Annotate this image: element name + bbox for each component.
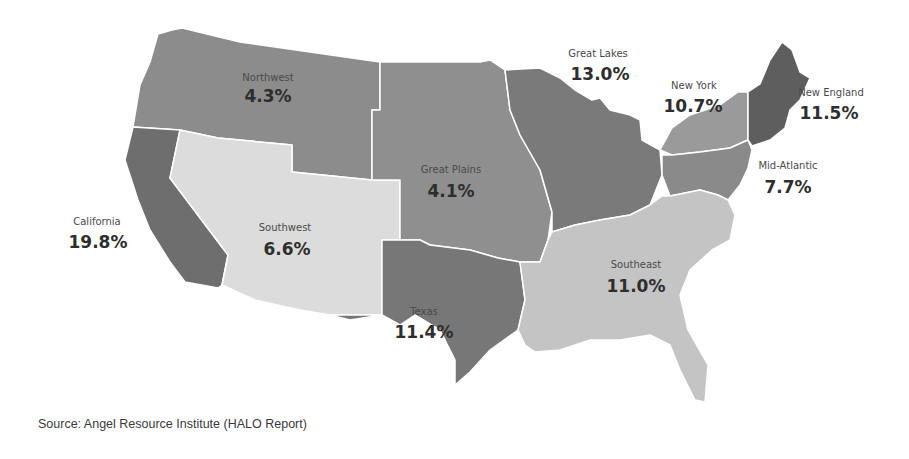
label-great-lakes: Great Lakes bbox=[568, 48, 628, 59]
source-caption: Source: Angel Resource Institute (HALO R… bbox=[38, 417, 307, 431]
label-new-york: New York bbox=[671, 80, 717, 91]
label-southwest: Southwest bbox=[259, 222, 312, 233]
value-mid-atlantic: 7.7% bbox=[764, 177, 811, 197]
us-region-map bbox=[0, 0, 909, 459]
label-new-england: New England bbox=[798, 87, 864, 98]
value-northwest: 4.3% bbox=[244, 86, 291, 106]
value-new-york: 10.7% bbox=[664, 96, 723, 116]
value-new-england: 11.5% bbox=[800, 103, 859, 123]
value-southwest: 6.6% bbox=[263, 239, 310, 259]
value-southeast: 11.0% bbox=[607, 276, 666, 296]
value-california: 19.8% bbox=[69, 232, 128, 252]
label-california: California bbox=[73, 216, 121, 227]
label-northwest: Northwest bbox=[242, 72, 293, 83]
label-texas: Texas bbox=[410, 306, 438, 317]
value-great-plains: 4.1% bbox=[427, 181, 474, 201]
label-great-plains: Great Plains bbox=[421, 164, 481, 175]
label-mid-atlantic: Mid-Atlantic bbox=[758, 160, 817, 171]
value-texas: 11.4% bbox=[395, 322, 454, 342]
label-southeast: Southeast bbox=[611, 259, 661, 270]
value-great-lakes: 13.0% bbox=[571, 64, 630, 84]
